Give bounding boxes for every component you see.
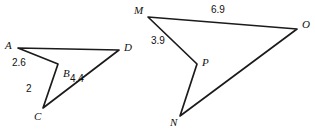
measure-label-mp: 3.9: [151, 36, 165, 46]
geometry-figure-canvas: A B C D 2.6 2 4.4 M P N O 3.9 6.9: [0, 0, 315, 130]
vertex-label-m: M: [134, 5, 143, 16]
vertex-label-a: A: [5, 40, 12, 51]
vertex-label-c: C: [34, 111, 41, 122]
geometry-svg: [0, 0, 315, 130]
vertex-label-n: N: [170, 117, 177, 128]
quadrilateral-mpno-path: [148, 17, 297, 116]
vertex-label-d: D: [124, 42, 132, 53]
measure-label-mo: 6.9: [211, 5, 225, 15]
vertex-label-p: P: [202, 57, 209, 68]
measure-label-cd: 4.4: [70, 74, 84, 84]
measure-label-bc: 2: [26, 84, 32, 94]
right-quadrilateral-outline: [148, 17, 297, 116]
vertex-label-o: O: [302, 19, 310, 30]
measure-label-ab: 2.6: [12, 58, 26, 68]
vertex-label-b: B: [63, 68, 70, 79]
